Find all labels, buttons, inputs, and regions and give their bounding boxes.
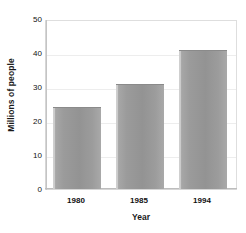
y-axis-title-text: Millions of people: [6, 58, 16, 132]
bar-1985: [116, 84, 164, 189]
x-axis-title: Year: [45, 212, 237, 222]
plot-inner: [46, 21, 236, 189]
bar-1980: [53, 107, 101, 189]
x-tick-label-1985: 1985: [115, 196, 163, 205]
y-tick-label: 30: [18, 84, 42, 92]
y-tick-label: 10: [18, 152, 42, 160]
y-tick-label: 20: [18, 118, 42, 126]
y-tick-label: 40: [18, 50, 42, 58]
bar-chart: Millions of people 50 40 30 20 10 0 1980…: [0, 0, 246, 233]
y-tick-label: 50: [18, 16, 42, 24]
plot-area: [45, 20, 237, 190]
y-tick-label: 0: [18, 186, 42, 194]
x-tick-label-1994: 1994: [178, 196, 226, 205]
y-axis-line: [46, 20, 47, 190]
y-axis-tick-labels: 50 40 30 20 10 0: [16, 0, 42, 233]
bar-1994: [179, 50, 227, 189]
x-tick-label-1980: 1980: [52, 196, 100, 205]
